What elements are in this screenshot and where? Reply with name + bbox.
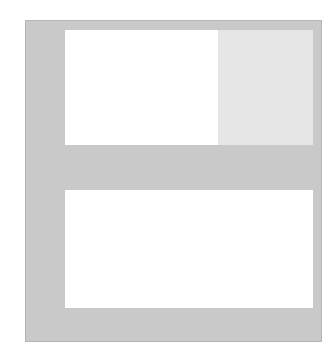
panel-females (65, 30, 313, 145)
males-plot-svg (65, 190, 313, 308)
panel-males (65, 190, 313, 308)
figure (0, 0, 333, 349)
females-plot-svg (65, 30, 313, 145)
